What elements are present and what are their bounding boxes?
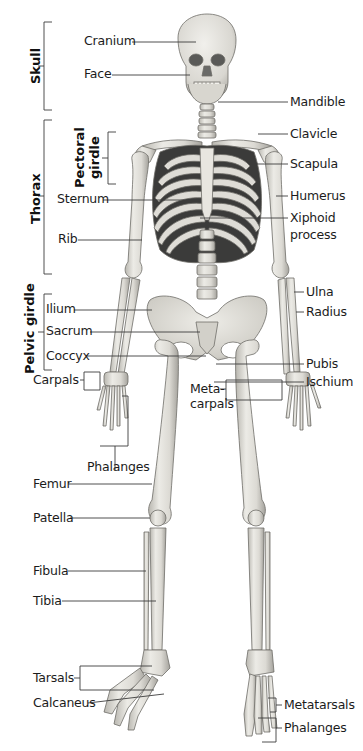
skeleton-diagram: Skull Thorax Pectoral girdle Pelvic gird… (0, 0, 363, 751)
label-xiphoid-line1: Xiphoid (290, 211, 336, 225)
label-xiphoid-line2: process (290, 228, 337, 242)
right-femur (236, 340, 266, 525)
label-sternum: Sternum (57, 192, 109, 206)
right-fibula (265, 532, 270, 650)
label-femur: Femur (33, 477, 71, 491)
label-carpals: Carpals (33, 373, 79, 387)
label-pubis: Pubis (306, 357, 338, 371)
label-cranium: Cranium (84, 34, 136, 48)
group-label-pelvic-girdle: Pelvic girdle (22, 283, 37, 374)
label-coccyx: Coccyx (46, 349, 90, 363)
right-foot (244, 650, 277, 736)
label-patella: Patella (33, 511, 73, 525)
pectoral-line1: Pectoral (72, 127, 87, 188)
skull-bone (178, 14, 236, 104)
bones (97, 14, 321, 736)
label-rib: Rib (58, 232, 78, 246)
pectoral-line2: girdle (87, 127, 102, 188)
group-label-thorax: Thorax (28, 173, 43, 224)
label-sacrum: Sacrum (46, 324, 93, 338)
label-metatarsals: Metatarsals (284, 698, 355, 712)
label-phalanges-foot: Phalanges (284, 721, 347, 735)
group-label-pectoral-girdle: Pectoral girdle (72, 127, 102, 188)
left-tibia (150, 528, 166, 650)
cervical-vertebrae (198, 104, 216, 138)
label-tarsals: Tarsals (33, 671, 74, 685)
label-calcaneus: Calcaneus (33, 696, 96, 710)
label-clavicle: Clavicle (290, 127, 337, 141)
label-mandible: Mandible (290, 95, 345, 109)
label-phalanges-hand: Phalanges (87, 460, 150, 474)
left-humerus (125, 152, 148, 278)
left-femur (149, 340, 179, 525)
group-label-skull: Skull (28, 48, 43, 84)
right-tibia (248, 528, 264, 650)
label-ulna: Ulna (306, 285, 333, 299)
label-scapula: Scapula (290, 157, 338, 171)
label-tibia: Tibia (33, 594, 62, 608)
right-humerus (265, 152, 288, 278)
left-hand (97, 372, 128, 430)
right-patella (248, 510, 264, 526)
left-patella (150, 510, 166, 526)
label-metacarpals-line1: Meta- (190, 382, 225, 396)
label-face: Face (84, 67, 111, 81)
label-ilium: Ilium (46, 302, 76, 316)
label-metacarpals-line2: carpals (190, 397, 234, 411)
label-fibula: Fibula (33, 564, 69, 578)
label-radius: Radius (306, 305, 347, 319)
left-fibula (144, 532, 149, 650)
label-ischium: Ischium (306, 375, 353, 389)
label-humerus: Humerus (290, 189, 345, 203)
sternum-bone (200, 148, 214, 220)
